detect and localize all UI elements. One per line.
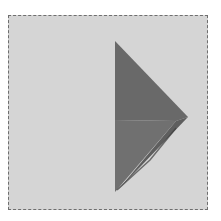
triangle-upper-facet	[115, 41, 188, 121]
play-triangle-icon[interactable]	[0, 0, 221, 221]
canvas	[0, 0, 221, 221]
triangle-lower-facet	[115, 120, 176, 192]
